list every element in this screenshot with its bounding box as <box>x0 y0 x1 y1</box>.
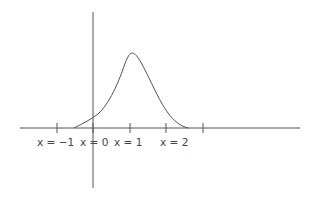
diagram-canvas <box>0 0 317 200</box>
tick-label-x-0: x = 0 <box>80 137 108 148</box>
bell-curve <box>74 53 188 128</box>
tick-label-x-minus-1: x = −1 <box>37 137 74 148</box>
tick-label-x-2: x = 2 <box>160 137 188 148</box>
tick-label-x-1: x = 1 <box>114 137 142 148</box>
